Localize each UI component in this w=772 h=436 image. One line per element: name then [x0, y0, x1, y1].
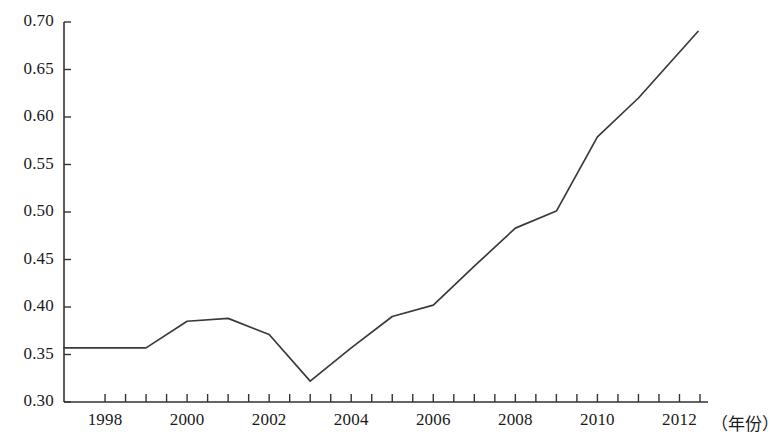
y-axis-tick-label: 0.65: [2, 59, 54, 79]
y-axis-tick-label: 0.70: [2, 11, 54, 31]
y-axis-tick-label: 0.60: [2, 106, 54, 126]
x-axis-tick-label: 2012: [649, 410, 709, 430]
x-axis-tick-label: 2010: [567, 410, 627, 430]
chart-series-lines: [64, 32, 698, 382]
x-axis-tick-label: 2008: [485, 410, 545, 430]
data-series-line-0: [64, 32, 698, 382]
x-axis-tick-label: 2002: [239, 410, 299, 430]
y-axis-tick-label: 0.55: [2, 154, 54, 174]
y-axis-tick-label: 0.50: [2, 201, 54, 221]
x-axis-tick-label: 2000: [157, 410, 217, 430]
x-axis-tick-label: 2006: [403, 410, 463, 430]
y-axis-tick-label: 0.30: [2, 391, 54, 411]
y-axis-tick-label: 0.35: [2, 344, 54, 364]
x-axis-unit-label: （年份）: [711, 410, 772, 435]
chart-tick-marks: [64, 22, 700, 402]
x-axis-tick-label: 1998: [75, 410, 135, 430]
y-axis-tick-label: 0.45: [2, 249, 54, 269]
y-axis-tick-label: 0.40: [2, 296, 54, 316]
x-axis-tick-label: 2004: [321, 410, 381, 430]
chart-axes: [64, 22, 708, 402]
